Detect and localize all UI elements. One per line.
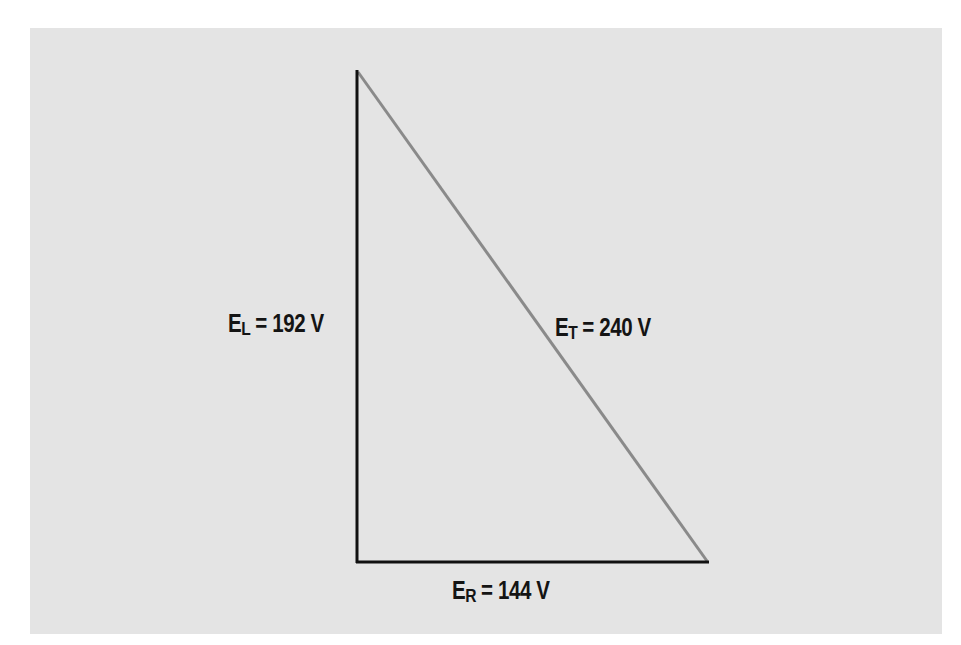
label-et-subscript: T bbox=[568, 322, 577, 343]
label-el-symbol: E bbox=[228, 309, 241, 337]
hypotenuse-line-et bbox=[358, 72, 707, 561]
label-er-subscript: R bbox=[465, 585, 476, 606]
voltage-triangle bbox=[0, 0, 961, 645]
label-el-subscript: L bbox=[241, 318, 250, 339]
label-er-value: = 144 V bbox=[481, 576, 549, 604]
label-et-value: = 240 V bbox=[582, 313, 650, 341]
label-er-symbol: E bbox=[452, 576, 465, 604]
label-et-symbol: E bbox=[555, 313, 568, 341]
label-el-value: = 192 V bbox=[255, 309, 323, 337]
label-el: EL= 192 V bbox=[228, 309, 324, 340]
label-et: ET= 240 V bbox=[555, 313, 651, 344]
label-er: ER= 144 V bbox=[452, 576, 549, 607]
